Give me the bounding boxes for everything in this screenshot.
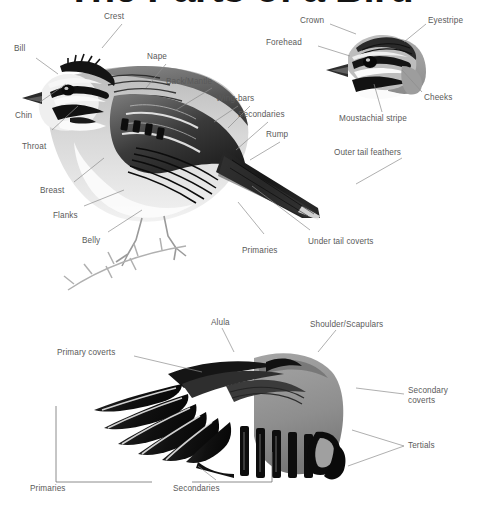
label-tertials: Tertials [408, 441, 435, 451]
label-back-mantle: Back/Mantle [166, 77, 212, 87]
label-secondary-coverts-line1: Secondary [408, 386, 448, 396]
label-chin: Chin [15, 111, 32, 121]
label-eyestripe: Eyestripe [428, 16, 463, 26]
label-shoulder-scapulars: Shoulder/Scapulars [310, 320, 383, 330]
label-forehead: Forehead [266, 38, 302, 48]
label-alula: Alula [211, 318, 230, 328]
label-secondaries-body: Secondaries [238, 110, 285, 120]
leader-lines [0, 0, 480, 511]
label-nape: Nape [147, 52, 167, 62]
label-outer-tail-feathers: Outer tail feathers [334, 148, 401, 158]
label-primaries-body: Primaries [242, 246, 277, 256]
label-bill: Bill [14, 44, 25, 54]
label-rump: Rump [266, 130, 288, 140]
label-secondaries-wing: Secondaries [173, 484, 220, 494]
label-secondary-coverts-line2: coverts [408, 396, 435, 406]
bird-anatomy-diagram: The Parts of a Bird [0, 0, 480, 511]
label-cheeks: Cheeks [424, 93, 452, 103]
label-throat: Throat [22, 142, 46, 152]
label-breast: Breast [40, 186, 64, 196]
label-flanks: Flanks [53, 211, 78, 221]
label-under-tail-coverts: Under tail coverts [308, 237, 374, 247]
label-belly: Belly [82, 236, 100, 246]
label-moustachial-stripe: Moustachial stripe [339, 114, 407, 124]
label-wing-bars: Wing-bars [216, 94, 254, 104]
label-crown: Crown [300, 16, 324, 26]
label-primary-coverts: Primary coverts [57, 348, 115, 358]
label-crest: Crest [104, 12, 124, 22]
label-primaries-wing: Primaries [30, 484, 65, 494]
